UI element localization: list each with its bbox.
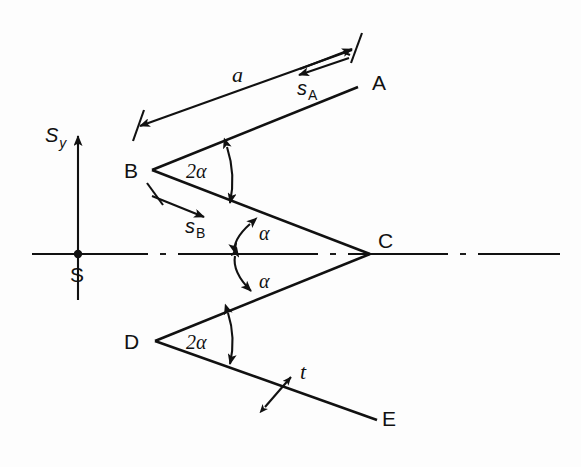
point-label-c: C xyxy=(378,229,393,252)
angle-label-2alpha-b: 2α xyxy=(186,160,207,182)
origin-point-marker xyxy=(74,250,82,258)
diagram-canvas: Sy S A B C D E a sA sB t 2α α α 2α xyxy=(0,0,581,467)
point-label-b: B xyxy=(124,159,138,182)
angle-arc-2alpha-b xyxy=(227,147,232,203)
dimension-sa xyxy=(299,49,352,75)
dimension-label-t: t xyxy=(300,359,307,384)
point-label-e: E xyxy=(382,407,396,430)
angle-arc-alpha-lower xyxy=(235,256,251,291)
angle-arc-alpha-upper xyxy=(235,224,250,253)
dimension-label-sa: sA xyxy=(297,77,318,103)
dimension-label-a: a xyxy=(232,62,243,87)
segment-ab xyxy=(152,87,358,170)
angle-label-2alpha-d: 2α xyxy=(186,331,207,353)
angle-arc-2alpha-d xyxy=(228,313,233,364)
point-label-d: D xyxy=(124,330,139,353)
axis-label-sy: Sy xyxy=(45,124,67,151)
dimension-label-sb: sB xyxy=(185,215,205,241)
point-label-a: A xyxy=(372,71,386,94)
dimension-a xyxy=(133,33,362,141)
point-label-s: S xyxy=(70,263,84,286)
angle-label-alpha-upper: α xyxy=(259,222,270,244)
technical-diagram-svg: Sy S A B C D E a sA sB t 2α α α 2α xyxy=(0,0,581,467)
segment-cd xyxy=(155,254,370,341)
angle-label-alpha-lower: α xyxy=(259,270,270,292)
